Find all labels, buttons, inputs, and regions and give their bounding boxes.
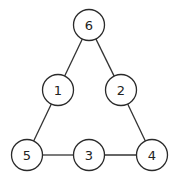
node-label: 6 [85,18,93,33]
node-6: 6 [74,10,105,41]
node-label: 1 [54,83,62,98]
edge-1-5 [34,104,52,141]
nodes-group: 612534 [12,10,168,171]
edge-6-1 [65,39,83,76]
graph-diagram: 612534 [0,0,179,177]
node-label: 3 [85,148,93,163]
node-2: 2 [106,75,137,106]
node-1: 1 [43,75,74,106]
edge-2-4 [128,104,146,141]
node-5: 5 [12,140,43,171]
node-label: 5 [23,148,31,163]
node-4: 4 [137,140,168,171]
node-label: 2 [117,83,125,98]
node-3: 3 [74,140,105,171]
node-label: 4 [148,148,156,163]
edge-6-2 [96,39,114,76]
